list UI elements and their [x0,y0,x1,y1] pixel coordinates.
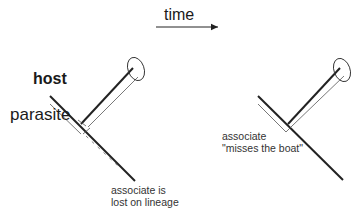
parasite-tube-left-c [88,77,138,127]
parasite-tube-right-c [292,76,344,126]
right-annotation-line2: "misses the boat" [222,142,303,154]
host-branch-right [288,68,340,124]
lost-parasite-lineage [86,136,118,166]
left-annotation-line1: associate is [111,184,179,196]
time-label: time [164,6,194,24]
parasite-label: parasite [10,105,70,125]
left-annotation-line2: lost on lineage [111,196,179,208]
host-branch-left [81,68,133,124]
right-panel [258,56,354,180]
right-annotation: associate "misses the boat" [222,130,303,154]
left-annotation: associate is lost on lineage [111,184,179,208]
host-label: host [33,70,67,88]
right-annotation-line1: associate [222,130,303,142]
parasite-tube-right-a [258,104,286,132]
associate-ellipse-right [330,56,353,84]
